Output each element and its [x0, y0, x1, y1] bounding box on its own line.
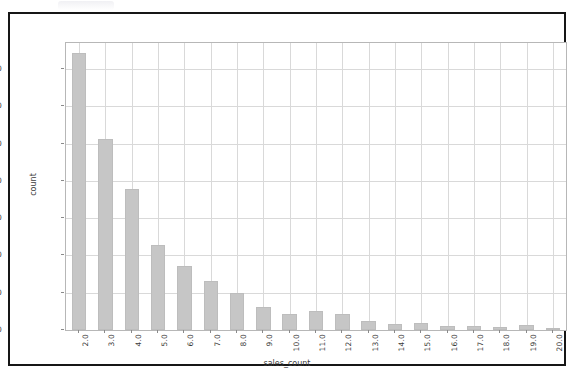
- x-tick-mark: [499, 330, 500, 333]
- y-tick-mark: [61, 217, 64, 218]
- x-tick-mark: [289, 330, 290, 333]
- y-tick-label: 700: [0, 64, 2, 73]
- x-tick-mark: [315, 330, 316, 333]
- x-tick-label: 4.0: [134, 334, 143, 347]
- y-tick-label: 0: [0, 325, 2, 334]
- x-tick-mark: [394, 330, 395, 333]
- y-tick-mark: [61, 143, 64, 144]
- y-tick-mark: [61, 329, 64, 330]
- x-tick-label: 20.0: [555, 334, 564, 352]
- y-tick-mark: [61, 254, 64, 255]
- y-tick-label: 500: [0, 138, 2, 147]
- x-tick-mark: [210, 330, 211, 333]
- bar: [72, 53, 86, 330]
- x-tick-mark: [262, 330, 263, 333]
- x-tick-label: 6.0: [186, 334, 195, 347]
- y-tick-label: 100: [0, 287, 2, 296]
- x-axis-label: sales_count: [10, 359, 564, 368]
- x-tick-mark: [157, 330, 158, 333]
- y-tick-mark: [61, 105, 64, 106]
- x-tick-mark: [526, 330, 527, 333]
- y-tick-label: 200: [0, 250, 2, 259]
- x-tick-mark: [552, 330, 553, 333]
- bars-container: [66, 43, 566, 330]
- image-artifact: [58, 1, 114, 10]
- x-tick-label: 9.0: [265, 334, 274, 347]
- bar: [414, 323, 428, 330]
- x-tick-mark: [341, 330, 342, 333]
- bar: [204, 281, 218, 330]
- figure-frame: count 0100200300400500600700 2.03.04.05.…: [8, 12, 566, 366]
- x-tick-mark: [183, 330, 184, 333]
- bar: [98, 139, 112, 330]
- x-tick-label: 11.0: [318, 334, 327, 352]
- y-tick-label: 300: [0, 213, 2, 222]
- x-tick-mark: [473, 330, 474, 333]
- x-tick-mark: [368, 330, 369, 333]
- y-tick-label: 600: [0, 101, 2, 110]
- x-tick-label: 2.0: [81, 334, 90, 347]
- y-tick-mark: [61, 68, 64, 69]
- x-tick-label: 17.0: [476, 334, 485, 352]
- matplotlib-figure: count 0100200300400500600700 2.03.04.05.…: [0, 0, 576, 375]
- x-tick-mark: [104, 330, 105, 333]
- plot-area: [65, 42, 567, 331]
- x-tick-mark: [78, 330, 79, 333]
- x-tick-label: 3.0: [107, 334, 116, 347]
- x-tick-label: 13.0: [371, 334, 380, 352]
- x-tick-mark: [236, 330, 237, 333]
- bar: [309, 311, 323, 330]
- bar: [256, 307, 270, 330]
- x-tick-mark: [420, 330, 421, 333]
- x-tick-label: 15.0: [423, 334, 432, 352]
- x-tick-label: 8.0: [239, 334, 248, 347]
- bar: [177, 266, 191, 330]
- bar: [230, 293, 244, 330]
- y-tick-mark: [61, 180, 64, 181]
- bar: [361, 321, 375, 330]
- x-tick-mark: [447, 330, 448, 333]
- bar: [151, 245, 165, 330]
- y-axis-label: count: [29, 144, 38, 224]
- x-tick-mark: [131, 330, 132, 333]
- bar: [335, 314, 349, 330]
- x-tick-label: 19.0: [529, 334, 538, 352]
- x-tick-label: 5.0: [160, 334, 169, 347]
- bar: [282, 314, 296, 330]
- x-tick-label: 12.0: [344, 334, 353, 352]
- bar: [125, 189, 139, 330]
- x-tick-label: 10.0: [292, 334, 301, 352]
- x-tick-label: 7.0: [213, 334, 222, 347]
- bar: [493, 327, 507, 330]
- x-tick-label: 18.0: [502, 334, 511, 352]
- x-tick-label: 16.0: [450, 334, 459, 352]
- x-tick-label: 14.0: [397, 334, 406, 352]
- y-tick-mark: [61, 292, 64, 293]
- y-tick-label: 400: [0, 175, 2, 184]
